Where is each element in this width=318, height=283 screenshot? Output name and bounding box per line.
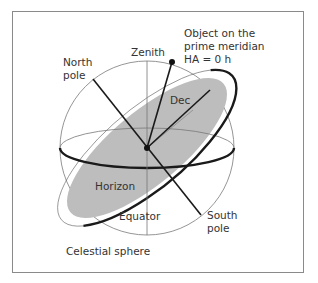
south-pole-label-1: South bbox=[207, 209, 238, 221]
equator-label: Equator bbox=[119, 210, 160, 222]
object-dot bbox=[169, 59, 175, 65]
celestial-sphere-diagram bbox=[0, 0, 318, 283]
south-pole-label-2: pole bbox=[207, 222, 229, 234]
center-dot bbox=[144, 145, 150, 151]
figure-caption: Celestial sphere bbox=[66, 245, 150, 257]
object-label-1: Object on the bbox=[184, 27, 255, 39]
dec-label: Dec bbox=[170, 94, 190, 106]
zenith-label: Zenith bbox=[131, 46, 165, 58]
horizon-label: Horizon bbox=[95, 180, 135, 192]
object-label-3: HA = 0 h bbox=[184, 53, 231, 65]
north-pole-label-2: pole bbox=[63, 69, 85, 81]
north-pole-label-1: North bbox=[63, 56, 92, 68]
object-label-2: prime meridian bbox=[184, 40, 265, 52]
